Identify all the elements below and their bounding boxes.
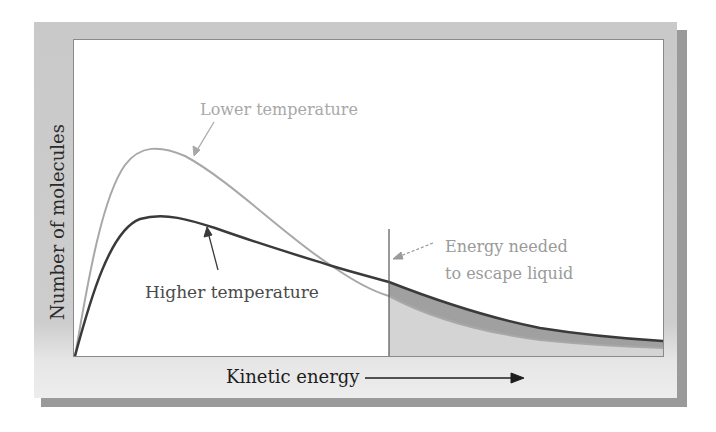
x-axis-label: Kinetic energy [226,366,359,387]
x-axis-arrow-icon [365,373,524,383]
energy-threshold-arrow [393,243,433,259]
higher-temperature-label: Higher temperature [145,282,319,302]
lower-temperature-arrow [193,122,214,156]
energy-threshold-label-line2: to escape liquid [445,260,573,287]
lower-temperature-curve [75,149,663,356]
lower-temperature-label: Lower temperature [200,100,358,119]
energy-threshold-label-line1: Energy needed [445,233,573,260]
energy-threshold-label: Energy needed to escape liquid [445,233,573,287]
higher-temperature-arrow [204,227,218,270]
y-axis-label: Number of molecules [47,124,68,320]
